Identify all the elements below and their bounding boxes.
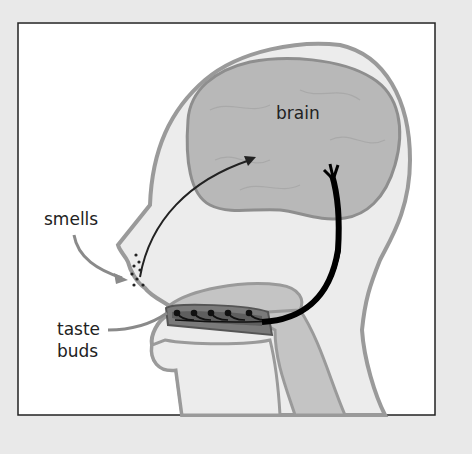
label-taste-buds-line1: taste (57, 319, 100, 339)
brain (187, 59, 400, 219)
label-brain: brain (276, 103, 320, 123)
label-smells: smells (44, 209, 98, 229)
label-taste-buds-line2: buds (57, 341, 98, 361)
